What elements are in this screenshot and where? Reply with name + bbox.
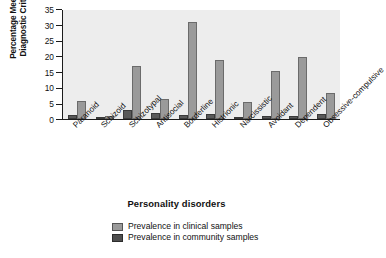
bar-clinical <box>188 22 197 119</box>
y-axis-tick-label: 20 <box>30 53 54 61</box>
y-axis-title-line-1: Percentage Meeting <box>9 0 19 59</box>
y-axis-tick-label: 25 <box>30 37 54 45</box>
legend-swatch-clinical <box>112 223 123 231</box>
chart-legend: Prevalence in clinical samplesPrevalence… <box>112 222 258 242</box>
x-axis-title: Personality disorders <box>0 198 353 209</box>
legend-label: Prevalence in clinical samples <box>128 222 243 231</box>
y-axis-tick-label: 10 <box>30 84 54 92</box>
legend-item: Prevalence in clinical samples <box>112 222 258 231</box>
legend-label: Prevalence in community samples <box>128 233 258 242</box>
y-axis-tick-label: 0 <box>30 116 54 124</box>
y-axis-title-line-2: Diagnostic Criteria <box>19 0 29 56</box>
legend-item: Prevalence in community samples <box>112 233 258 242</box>
y-axis-tick-label: 5 <box>30 100 54 108</box>
legend-swatch-community <box>112 234 123 242</box>
y-axis-tick-label: 35 <box>30 6 54 14</box>
bar-group <box>63 10 91 119</box>
y-axis-title: Percentage Meeting Diagnostic Criteria <box>8 0 30 76</box>
y-axis-tick-label: 30 <box>30 22 54 30</box>
y-axis-tick-label: 15 <box>30 69 54 77</box>
